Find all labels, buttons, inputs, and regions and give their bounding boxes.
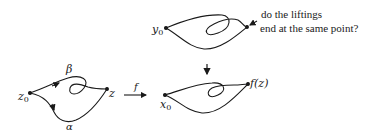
left-paths: [29, 77, 109, 122]
question-note-line2: end at the same point?: [260, 23, 358, 34]
top-lifted-paths: [165, 15, 258, 49]
x0-label: x0: [160, 99, 171, 112]
right-paths: [164, 83, 250, 113]
alpha-label: α: [66, 122, 73, 132]
z0-label: z0: [18, 91, 29, 104]
fz-label: f(z): [250, 78, 268, 89]
beta-label: β: [66, 64, 72, 75]
map-f-label: f: [134, 82, 138, 92]
diagram-canvas: [0, 0, 385, 134]
question-note-line1: do the liftings: [261, 9, 322, 20]
y0-label: y0: [152, 24, 163, 37]
z-label: z: [109, 88, 115, 99]
